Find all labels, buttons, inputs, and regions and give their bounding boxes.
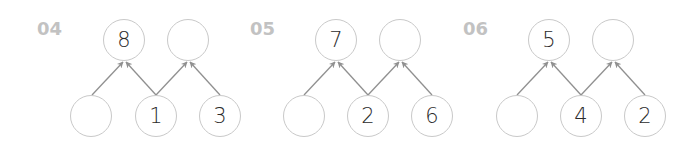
- problem-number: 05: [250, 18, 275, 39]
- arrow-icon: [402, 62, 432, 95]
- arrow-icon: [368, 62, 399, 95]
- bottom-node-left[interactable]: [496, 95, 538, 137]
- arrow-icon: [551, 62, 581, 95]
- top-node-right[interactable]: [379, 19, 421, 61]
- bottom-node-middle[interactable]: 2: [347, 95, 389, 137]
- top-node-left[interactable]: 5: [528, 19, 570, 61]
- problem-05-arrows: [304, 62, 432, 95]
- top-node-right[interactable]: [592, 19, 634, 61]
- arrow-icon: [615, 62, 645, 95]
- problem-06-arrows: [517, 62, 645, 95]
- problem-number: 06: [463, 18, 488, 39]
- problem-06: 06 5 4 2: [0, 0, 212, 154]
- arrow-icon: [304, 62, 335, 95]
- bottom-node-middle[interactable]: 4: [560, 95, 602, 137]
- top-node-left[interactable]: 7: [315, 19, 357, 61]
- bottom-node-left[interactable]: [283, 95, 325, 137]
- arrow-icon: [517, 62, 548, 95]
- arrow-icon: [338, 62, 368, 95]
- bottom-node-right[interactable]: 6: [411, 95, 453, 137]
- bottom-node-right[interactable]: 2: [624, 95, 666, 137]
- arrow-icon: [581, 62, 612, 95]
